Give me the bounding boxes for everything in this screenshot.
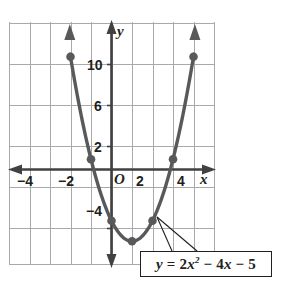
- equation-equals-sign: =: [163, 256, 180, 272]
- equation-callout-box: y = 2x2 − 4x − 5: [140, 251, 272, 277]
- graph-figure: −4 −2 2 4 10 6 2 −4 O y x y = 2x2 − 4x −…: [0, 0, 291, 303]
- point--1-1: [87, 155, 96, 164]
- x-tick-label-2: 2: [136, 174, 144, 188]
- y-tick-label--4: −4: [86, 204, 102, 218]
- equation-label: y = 2x2 − 4x − 5: [156, 255, 256, 273]
- point-3-1: [169, 155, 178, 164]
- point-0--5: [107, 216, 116, 225]
- origin-label: O: [114, 172, 125, 187]
- x-tick-label--2: −2: [58, 174, 74, 188]
- y-tick-label-2: 2: [94, 140, 102, 154]
- point--2-11: [66, 52, 75, 61]
- y-axis: [107, 20, 117, 268]
- equation-constant: 5: [248, 256, 256, 272]
- y-axis-label: y: [117, 24, 124, 39]
- x-axis-label: x: [200, 172, 208, 187]
- equation-minus-2: −: [232, 256, 249, 272]
- equation-minus-1: −: [200, 256, 217, 272]
- y-tick-label-10: 10: [87, 58, 103, 72]
- curve-arrow-right: [189, 24, 200, 40]
- equation-var-x2: x: [224, 256, 232, 272]
- x-tick-label--4: −4: [17, 174, 33, 188]
- point-1--7: [128, 237, 137, 246]
- equation-coef-b: 4: [216, 256, 224, 272]
- callout-leader-lines: [157, 217, 197, 251]
- point-2--5: [148, 216, 157, 225]
- x-tick-label-4: 4: [177, 174, 185, 188]
- point-4-11: [189, 52, 198, 61]
- equation-var-x: x: [187, 256, 195, 272]
- y-tick-label-6: 6: [94, 99, 102, 113]
- curve-arrow-left: [64, 24, 75, 40]
- equation-lhs: y: [156, 256, 163, 272]
